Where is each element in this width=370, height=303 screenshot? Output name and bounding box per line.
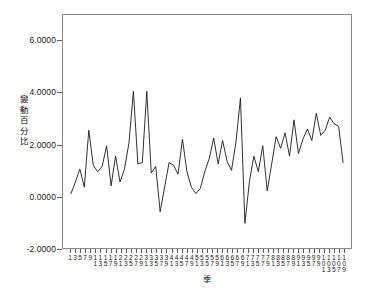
x-tickmark [192, 249, 193, 253]
x-tickmark [131, 249, 132, 253]
x-tickmark [100, 249, 101, 253]
x-tickmark [237, 249, 238, 253]
x-tickmark [161, 249, 162, 253]
x-tickmark [126, 249, 127, 253]
x-tickmark [166, 249, 167, 253]
x-tickmark [187, 249, 188, 253]
y-tick-label: 2.0000 [29, 140, 56, 150]
x-tickmark [177, 249, 178, 253]
x-tickmark [248, 249, 249, 253]
x-tickmark [212, 249, 213, 253]
x-tickmark [263, 249, 264, 253]
y-axis: 變 動 百 分 比 6.00004.00002.00000.0000-2.000… [0, 0, 62, 260]
x-tickmarks [62, 249, 352, 253]
x-tickmark [253, 249, 254, 253]
x-tickmark [344, 249, 345, 253]
x-tickmark [339, 249, 340, 253]
x-tickmark [314, 249, 315, 253]
x-tickmark [116, 249, 117, 253]
x-tickmark [298, 249, 299, 253]
x-tickmark [90, 249, 91, 253]
plot-area [62, 14, 352, 249]
chart-figure: 變 動 百 分 比 6.00004.00002.00000.0000-2.000… [0, 0, 370, 303]
x-tickmark [85, 249, 86, 253]
x-tickmark [293, 249, 294, 253]
y-axis-title-char-3: 分 [18, 126, 31, 137]
x-axis-title: 季 [62, 272, 352, 284]
series-line [63, 15, 351, 248]
y-tick-label: -2.0000 [26, 244, 56, 254]
x-tickmark [136, 249, 137, 253]
x-tickmark [222, 249, 223, 253]
x-tickmark [151, 249, 152, 253]
x-tickmark [334, 249, 335, 253]
x-tickmark [182, 249, 183, 253]
y-tick-label: 0.0000 [29, 192, 56, 202]
x-tickmark [141, 249, 142, 253]
y-axis-title-char-1: 動 [18, 105, 31, 116]
x-tickmark [75, 249, 76, 253]
x-tickmark [232, 249, 233, 253]
x-tickmark [329, 249, 330, 253]
x-tickmark [324, 249, 325, 253]
x-tickmark [80, 249, 81, 253]
x-tickmark [278, 249, 279, 253]
x-tickmark [121, 249, 122, 253]
y-axis-title-char-2: 百 [18, 115, 31, 126]
x-tickmark [172, 249, 173, 253]
x-tickmark [106, 249, 107, 253]
x-tickmark [303, 249, 304, 253]
x-tickmark [111, 249, 112, 253]
x-tickmark [309, 249, 310, 253]
x-tickmark [258, 249, 259, 253]
x-tickmark [207, 249, 208, 253]
x-tickmark [202, 249, 203, 253]
x-tickmark [217, 249, 218, 253]
x-tickmark [146, 249, 147, 253]
y-tick-label: 6.0000 [29, 35, 56, 45]
x-tickmark [319, 249, 320, 253]
x-tickmark [70, 249, 71, 253]
x-tickmark [243, 249, 244, 253]
x-tickmark [227, 249, 228, 253]
x-tickmark [288, 249, 289, 253]
x-tickmark [95, 249, 96, 253]
x-tickmark [156, 249, 157, 253]
x-tickmark [268, 249, 269, 253]
x-tickmark [273, 249, 274, 253]
x-tickmark [283, 249, 284, 253]
y-tick-label: 4.0000 [29, 87, 56, 97]
x-tickmark [197, 249, 198, 253]
